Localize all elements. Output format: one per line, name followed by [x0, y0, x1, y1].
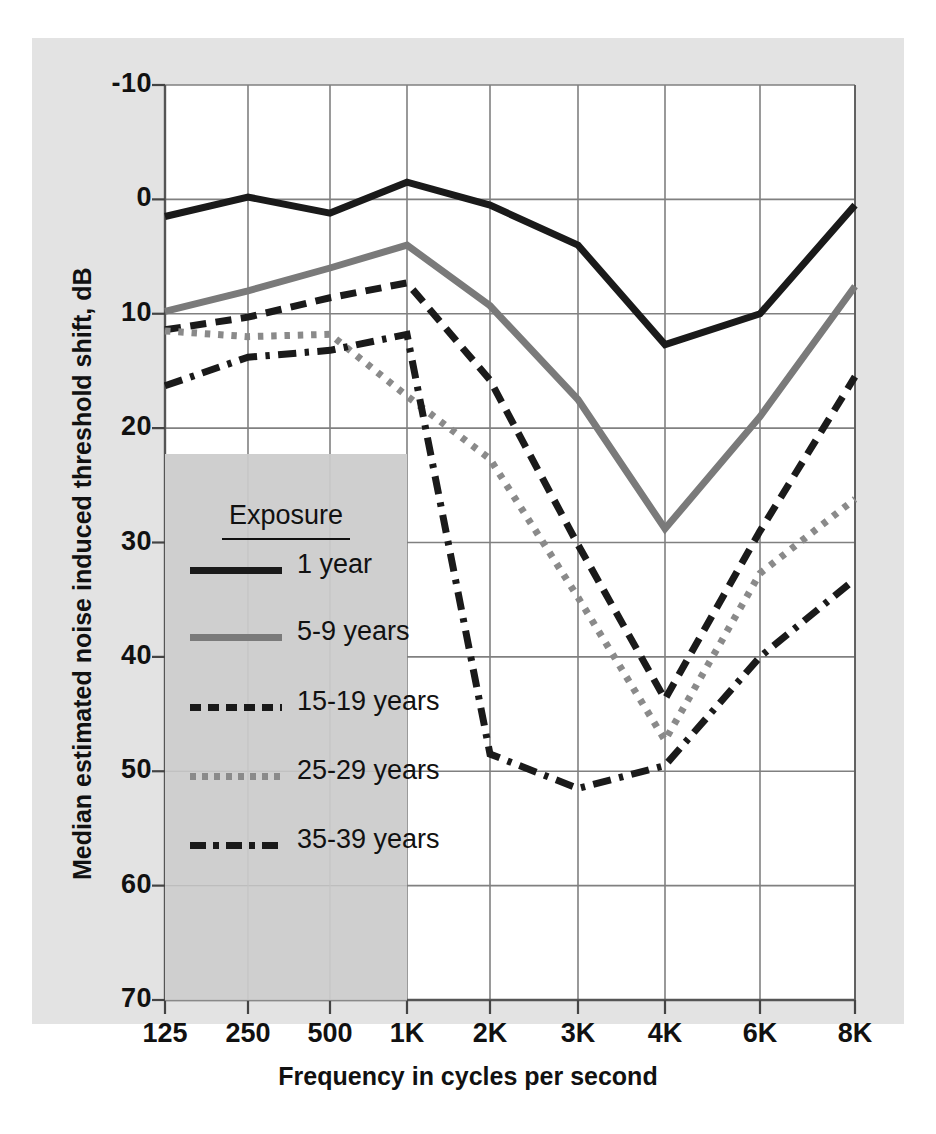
legend-swatch-35-39-years: [190, 842, 282, 849]
x-tick-label: 250: [203, 1018, 293, 1049]
y-tick-label: 70: [60, 983, 152, 1014]
legend-mask-rect: [165, 454, 407, 1000]
legend-title: Exposure: [165, 500, 407, 531]
x-tick-label: 4K: [620, 1018, 710, 1049]
legend-label-5-9-years: 5-9 years: [297, 616, 410, 647]
legend-label-1-year: 1 year: [297, 549, 372, 580]
legend-label-15-19-years: 15-19 years: [297, 686, 440, 717]
legend-swatch-25-29-years: [190, 773, 282, 780]
y-axis-title: Median estimated noise induced threshold…: [68, 267, 97, 880]
x-tick-label: 2K: [445, 1018, 535, 1049]
x-tick-label: 3K: [533, 1018, 623, 1049]
legend-title-underline: [222, 538, 350, 540]
x-axis-title: Frequency in cycles per second: [0, 1062, 936, 1091]
y-tick-label: -10: [60, 68, 152, 99]
legend-swatch-5-9-years: [190, 634, 282, 641]
y-tick-label: 0: [60, 182, 152, 213]
legend-label-35-39-years: 35-39 years: [297, 824, 440, 855]
figure-root: -10010203040506070 1252505001K2K3K4K6K8K…: [0, 0, 936, 1134]
legend-label-25-29-years: 25-29 years: [297, 755, 440, 786]
series-line-1-year: [165, 182, 855, 344]
x-tick-label: 8K: [810, 1018, 900, 1049]
legend-mask: [165, 454, 407, 1000]
x-tick-label: 1K: [362, 1018, 452, 1049]
legend-swatch-15-19-years: [190, 704, 282, 711]
legend-swatch-1-year: [190, 567, 282, 574]
x-tick-label: 125: [120, 1018, 210, 1049]
line-chart: [0, 0, 936, 1134]
x-tick-label: 6K: [715, 1018, 805, 1049]
